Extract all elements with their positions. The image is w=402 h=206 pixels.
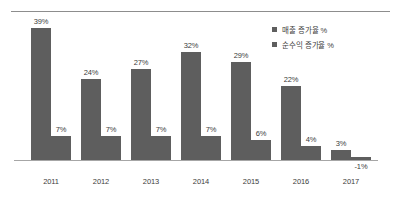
legend-swatch-icon <box>272 42 277 47</box>
bar-item[interactable]: 4% <box>301 146 321 160</box>
bar-rect <box>101 136 121 160</box>
category-label: 2011 <box>26 177 76 186</box>
bar-value-label: 7% <box>191 125 231 134</box>
category-label: 2017 <box>326 177 376 186</box>
bar-item[interactable]: 27% <box>131 69 151 160</box>
bar-value-label: 22% <box>271 75 311 84</box>
bar-value-label: 27% <box>121 58 161 67</box>
bar-item[interactable]: 3% <box>331 150 351 160</box>
bar-rect <box>231 62 251 160</box>
bar-rect <box>51 136 71 160</box>
bar-rect <box>331 150 351 160</box>
bar-item[interactable]: 7% <box>201 136 221 160</box>
category-label: 2013 <box>126 177 176 186</box>
bar-value-label: 7% <box>91 125 131 134</box>
legend-swatch-icon <box>272 27 277 32</box>
bar-rect <box>201 136 221 160</box>
bar-value-label: 7% <box>141 125 181 134</box>
legend-item-series-2[interactable]: 순수익 증가율 % <box>272 39 390 49</box>
bar-value-label: 29% <box>221 51 261 60</box>
bar-value-label: 32% <box>171 41 211 50</box>
bar-rect <box>281 86 301 160</box>
bar-item[interactable]: 7% <box>101 136 121 160</box>
bar-value-label: 3% <box>321 139 361 148</box>
chart-legend: 매출 증가율 % 순수익 증가율 % <box>272 24 390 54</box>
category-axis-line <box>14 160 378 161</box>
bar-item[interactable]: 22% <box>281 86 301 160</box>
bar-rect <box>81 79 101 160</box>
bar-rect <box>181 52 201 160</box>
category-label: 2012 <box>76 177 126 186</box>
bar-value-label: 24% <box>71 68 111 77</box>
bar-value-label: 6% <box>241 129 281 138</box>
bar-item[interactable]: 29% <box>231 62 251 160</box>
chart-container: 39%7%24%7%27%7%32%7%29%6%22%4%3%-1% 2011… <box>0 0 402 206</box>
category-label: 2014 <box>176 177 226 186</box>
bar-rect <box>31 28 51 160</box>
bar-item[interactable]: 7% <box>151 136 171 160</box>
bar-rect <box>151 136 171 160</box>
bar-value-label: -1% <box>341 162 381 171</box>
legend-item-series-1[interactable]: 매출 증가율 % <box>272 24 390 34</box>
bar-rect <box>131 69 151 160</box>
bar-item[interactable]: 39% <box>31 28 51 160</box>
bar-rect <box>301 146 321 160</box>
bar-rect <box>251 140 271 160</box>
bar-item[interactable]: -1% <box>351 157 371 160</box>
legend-item-label: 매출 증가율 % <box>282 24 327 35</box>
bar-item[interactable]: 32% <box>181 52 201 160</box>
bar-value-label: 39% <box>21 17 61 26</box>
bar-item[interactable]: 7% <box>51 136 71 160</box>
category-label: 2016 <box>276 177 326 186</box>
bar-item[interactable]: 6% <box>251 140 271 160</box>
category-label: 2015 <box>226 177 276 186</box>
bar-value-label: 7% <box>41 125 81 134</box>
legend-item-label: 순수익 증가율 % <box>282 39 334 50</box>
bar-rect <box>351 157 371 160</box>
bar-item[interactable]: 24% <box>81 79 101 160</box>
